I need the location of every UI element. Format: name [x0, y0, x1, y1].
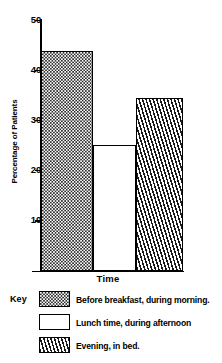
bar-morning[interactable]	[41, 51, 93, 271]
legend-label: Lunch time, during afternoon	[76, 318, 191, 328]
plot-area	[41, 19, 183, 271]
legend-swatch-plain	[39, 314, 70, 330]
legend-label: Evening, in bed.	[76, 341, 140, 351]
legend-item-evening[interactable]: Evening, in bed.	[39, 337, 219, 354]
x-axis-title: Time	[32, 273, 184, 284]
y-axis-title: Percentage of Patients	[10, 72, 19, 212]
bar-afternoon[interactable]	[93, 145, 136, 271]
bar-chart-figure: 50 40 30 20 10 Percentage of Patients Ti…	[0, 0, 222, 363]
y-tick-label: 10	[7, 215, 41, 225]
bar-evening[interactable]	[136, 98, 183, 271]
y-tick-label: 50	[7, 15, 41, 25]
legend-item-afternoon[interactable]: Lunch time, during afternoon	[39, 314, 219, 331]
legend-item-morning[interactable]: Before breakfast, during morning.	[39, 291, 219, 308]
legend: Key Before breakfast, during morning. Lu…	[0, 288, 222, 363]
legend-swatch-hatch	[39, 337, 70, 353]
legend-label: Before breakfast, during morning.	[76, 295, 210, 305]
legend-swatch-dots	[39, 291, 70, 307]
legend-title: Key	[10, 294, 27, 304]
